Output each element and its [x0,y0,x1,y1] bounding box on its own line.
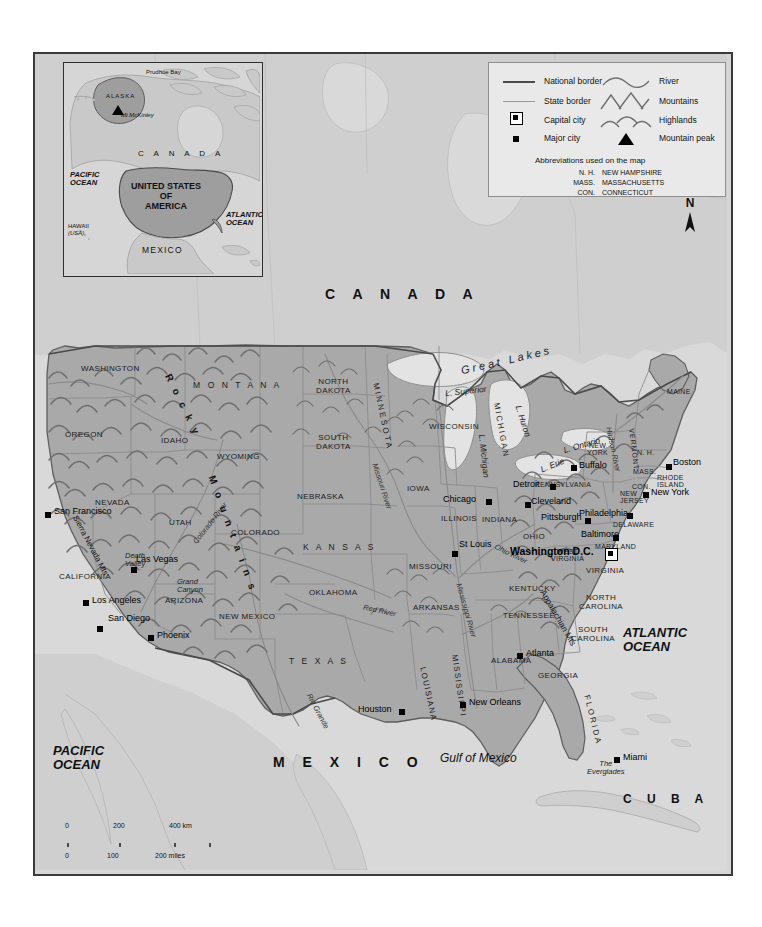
city-marker-detroit [550,484,556,490]
scale-km-0: 0 [65,822,69,829]
legend-abbr-short-mass: MASS. [551,179,595,186]
scale-bar: 0 200 400 km 0 100 200 miles [65,822,245,863]
city-marker-new-orleans [460,702,466,708]
legend-label-capital-city: Capital city [544,115,586,125]
legend-symbol-river [601,73,651,91]
map-page: C A N A D A M E X I C O C U B A PACIFIC … [0,0,762,927]
city-marker-miami [614,757,620,763]
scale-miles-100: 100 [107,852,119,859]
city-marker-cleveland [525,502,531,508]
map-frame: C A N A D A M E X I C O C U B A PACIFIC … [33,52,733,876]
north-arrow-icon [682,212,698,234]
legend-label-national-border: National border [544,76,602,86]
legend-label-highlands: Highlands [659,115,697,125]
city-marker-philadelphia [627,513,633,519]
compass-north-arrow: N [678,196,702,234]
legend-abbr-full-mass: MASSACHUSETTS [602,179,664,186]
city-marker-new-york-city [643,492,649,498]
scale-bar-graphic [65,842,215,847]
scale-miles-ticks: 0 100 200 miles [65,852,245,863]
capital-marker-washington-dc [605,548,618,561]
legend-label-major-city: Major city [544,133,580,143]
legend-symbol-state-border [503,101,535,102]
legend-symbol-mountain-peak [616,131,636,147]
scale-km-ticks: 0 200 400 km [65,822,245,833]
city-marker-los-angeles [83,600,89,606]
legend-abbreviations-title: Abbreviations used on the map [535,156,645,165]
legend-abbr-short-con: CON. [551,189,595,196]
city-marker-atlanta [517,653,523,659]
city-marker-chicago [486,499,492,505]
compass-north-letter: N [678,196,702,210]
inset-geography [64,63,260,274]
legend-symbol-mountains [599,91,653,111]
city-marker-pittsburgh [585,518,591,524]
city-marker-boston [666,464,672,470]
legend-abbr-full-nh: NEW HAMPSHIRE [602,169,662,176]
legend-label-mountains: Mountains [659,96,698,106]
city-marker-houston [399,709,405,715]
legend-panel: National border State border Capital cit… [488,62,726,197]
scale-miles-200: 200 miles [155,852,185,859]
legend-label-river: River [659,76,679,86]
city-marker-phoenix [148,635,154,641]
legend-abbr-short-nh: N. H. [551,169,595,176]
legend-symbol-national-border [503,81,535,83]
city-marker-st-louis [452,551,458,557]
legend-label-mountain-peak: Mountain peak [659,133,715,143]
scale-km-400: 400 km [169,822,192,829]
legend-symbol-major-city [513,136,519,142]
city-marker-las-vegas [131,567,137,573]
inset-map-north-america: Prudhoe Bay ALASKA Mt.McKinley C A N A D… [63,62,263,277]
legend-symbol-capital-city [510,112,523,125]
legend-symbol-highlands [599,113,653,131]
scale-miles-0: 0 [65,852,69,859]
city-marker-san-francisco [45,512,51,518]
inset-alaska [94,78,145,124]
legend-abbr-full-con: CONNECTICUT [602,189,653,196]
scale-km-200: 200 [113,822,125,829]
legend-label-state-border: State border [544,96,591,106]
city-marker-san-diego [97,626,103,632]
city-marker-buffalo [571,465,577,471]
city-marker-baltimore [613,535,619,541]
